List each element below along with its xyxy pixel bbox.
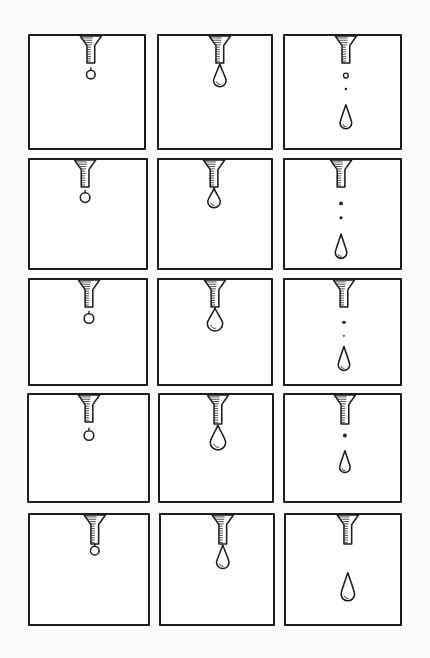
nozzle-icon	[333, 280, 354, 307]
droplet-icon	[342, 321, 345, 324]
panel-r3-c2	[157, 278, 273, 386]
panel-r1-c1	[28, 34, 146, 150]
droplet-icon	[340, 216, 343, 219]
panel-r2-c3	[283, 158, 402, 270]
droplet-icon	[345, 88, 348, 91]
droplet-icon	[343, 434, 347, 438]
panel-r3-c3	[283, 278, 402, 386]
droplet-icon	[339, 201, 343, 205]
panel-r2-c1	[28, 158, 148, 270]
nozzle-icon	[78, 395, 99, 422]
panel-r3-c1	[28, 278, 148, 386]
water-bead-icon	[84, 428, 94, 441]
water-bead-icon	[87, 67, 96, 79]
water-drop-icon	[338, 346, 350, 370]
droplet-icon	[343, 335, 345, 337]
nozzle-icon	[330, 160, 351, 187]
nozzle-icon	[337, 515, 358, 544]
panel-r5-c3	[284, 513, 402, 626]
nozzle-icon	[80, 36, 101, 63]
panel-r4-c1	[27, 393, 150, 503]
nozzle-icon	[335, 36, 356, 63]
water-drop-icon	[210, 425, 225, 450]
water-bead-icon	[84, 311, 94, 324]
nozzle-icon	[84, 515, 105, 544]
droplet-icon	[343, 73, 348, 78]
nozzle-icon	[212, 515, 233, 544]
panel-r1-c2	[157, 34, 273, 150]
nozzle-icon	[207, 395, 228, 424]
nozzle-icon	[78, 280, 99, 307]
panel-r5-c1	[28, 513, 150, 626]
water-drop-icon	[335, 234, 347, 258]
water-drop-icon	[340, 450, 351, 472]
panel-r1-c3	[283, 34, 402, 150]
water-drop-icon	[340, 104, 352, 128]
panel-r4-c3	[283, 393, 402, 503]
nozzle-icon	[203, 160, 224, 187]
panel-r2-c2	[157, 158, 273, 270]
water-drop-icon	[214, 64, 227, 87]
water-drop-icon	[207, 308, 222, 331]
water-bead-icon	[80, 190, 90, 203]
water-drop-icon	[341, 572, 355, 600]
nozzle-icon	[209, 36, 230, 63]
nozzle-icon	[334, 395, 355, 424]
water-bead-icon	[90, 543, 99, 555]
nozzle-icon	[204, 280, 225, 307]
water-drop-icon	[208, 188, 221, 208]
panel-r4-c2	[158, 393, 274, 503]
nozzle-icon	[75, 160, 96, 187]
water-drop-icon	[217, 545, 230, 569]
panel-r5-c2	[159, 513, 275, 626]
